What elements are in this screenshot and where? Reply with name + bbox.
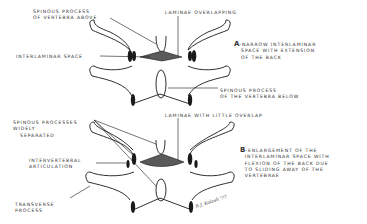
label-laminae-overlapping: LAMINAE OVERLAPPING — [165, 10, 237, 16]
label-text: SPINOUS PROCESS — [220, 88, 277, 93]
label-intervertebral-articulation: INTERVERTEBRALARTICULATION — [29, 152, 82, 171]
label-spinous-below: SPINOUS PROCESSOF THE VERTEBRA BELOW — [220, 82, 299, 101]
caption-line: SPACE WITH EXTENSION — [241, 48, 315, 53]
vertebrae-diagram: R.J. Kolesh '77 — [0, 0, 367, 224]
caption-line: VERTEBRAE — [245, 173, 280, 178]
label-text: SPINOUS PROCESSES — [13, 120, 77, 125]
label-text: TRANSVERSE — [15, 202, 54, 207]
label-transverse-process: TRANSVERSEPROCESS — [15, 196, 54, 215]
caption-line: TO SLIDING AWAY OF THE — [245, 167, 324, 172]
label-text: WIDELY — [13, 126, 36, 131]
caption-line: -ENLARGEMENT OF THE — [245, 148, 317, 153]
label-text: INTERVERTEBRAL — [29, 158, 82, 163]
label-text: PROCESS — [15, 208, 43, 213]
caption-line: -NARROW INTERLAMINAR — [239, 42, 316, 47]
label-text: SPINOUS PROCESS — [33, 9, 90, 14]
caption-line: OF THE BACK — [241, 55, 282, 60]
label-spinous-separated: SPINOUS PROCESSESWIDELY SEPARATED — [13, 114, 77, 139]
svg-text:R.J. Kolesh '77: R.J. Kolesh '77 — [194, 194, 228, 209]
caption-panel-b: B-ENLARGEMENT OF THE INTERLAMINAR SPACE … — [240, 141, 330, 179]
label-laminae-little-overlap: LAMINAE WITH LITTLE OVERLAP — [165, 113, 263, 119]
label-interlaminar-space: INTERLAMINAR SPACE — [16, 54, 83, 60]
label-text: ARTICULATION — [29, 164, 73, 169]
label-text: SEPARATED — [20, 133, 55, 138]
label-text: OF THE VERTEBRA BELOW — [220, 94, 299, 99]
label-text: OF VERTEBRA ABOVE — [33, 15, 97, 20]
label-spinous-above: SPINOUS PROCESSOF VERTEBRA ABOVE — [33, 3, 97, 22]
caption-line: INTERLAMINAR SPACE WITH — [245, 154, 330, 159]
caption-line: FLEXION OF THE BACK DUE — [245, 161, 329, 166]
caption-panel-a: A-NARROW INTERLAMINAR SPACE WITH EXTENSI… — [234, 35, 316, 61]
